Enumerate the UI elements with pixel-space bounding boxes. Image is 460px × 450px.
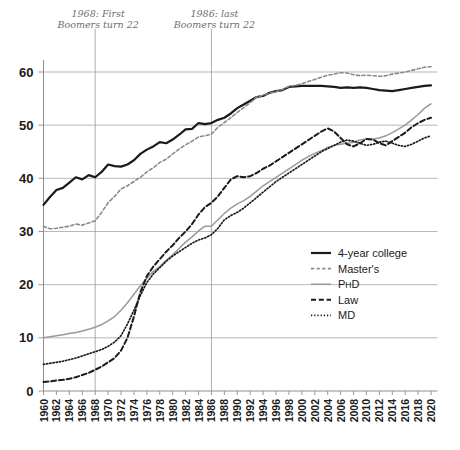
x-tick-label: 2020 (425, 399, 437, 423)
y-tick-label: 50 (19, 118, 33, 133)
x-tick-label: 1980 (167, 399, 179, 423)
grid-lines (44, 72, 438, 338)
x-tick-label: 1966 (76, 399, 88, 423)
x-tick-label: 2012 (373, 399, 385, 423)
x-tick-label: 1962 (50, 399, 62, 423)
x-tick-label: 1972 (115, 399, 127, 423)
series-line-4-year-college (44, 85, 432, 205)
x-tick-label: 1982 (180, 399, 192, 423)
x-tick-label: 1994 (257, 399, 269, 423)
x-tick-label: 1974 (128, 399, 140, 423)
annotation-text-line1: 1968: First (72, 8, 125, 19)
x-tick-label: 1964 (63, 399, 75, 423)
annotation-labels: 1968: FirstBoomers turn 221986: lastBoom… (57, 8, 255, 30)
x-tick-label: 1992 (244, 399, 256, 423)
x-tick-label: 2006 (335, 399, 347, 423)
annotation-text-line2: Boomers turn 22 (57, 19, 139, 30)
annotation-text-line1: 1986: last (191, 8, 239, 19)
x-tick-label: 2018 (412, 399, 424, 423)
x-tick-label: 1998 (283, 399, 295, 423)
x-tick-labels: 1960196219641966196819701972197419761978… (38, 399, 438, 423)
chart-container: 0102030405060 1968: FirstBoomers turn 22… (0, 0, 460, 450)
x-tick-label: 2014 (386, 399, 398, 423)
y-tick-label: 30 (19, 224, 33, 239)
x-tick-label: 2002 (309, 399, 321, 423)
x-tick-label: 1978 (154, 399, 166, 423)
legend-label-law[interactable]: Law (338, 294, 358, 306)
annotation-lines (95, 29, 211, 391)
x-axis (44, 391, 438, 395)
y-axis: 0102030405060 (19, 60, 43, 399)
x-tick-label: 1976 (141, 399, 153, 423)
y-tick-label: 0 (26, 384, 33, 399)
x-tick-label: 1984 (193, 399, 205, 423)
y-tick-label: 20 (19, 277, 33, 292)
x-tick-label: 1970 (102, 399, 114, 423)
data-series (44, 67, 432, 382)
x-tick-label: 2000 (296, 399, 308, 423)
x-tick-label: 1988 (218, 399, 230, 423)
y-tick-label: 40 (19, 171, 33, 186)
x-tick-label: 2008 (348, 399, 360, 423)
x-tick-label: 2004 (322, 399, 334, 423)
y-tick-label: 60 (19, 65, 33, 80)
x-tick-label: 2010 (360, 399, 372, 423)
chart-legend: 4-year collegeMaster'sPHDLawMD (311, 247, 407, 321)
line-chart: 0102030405060 1968: FirstBoomers turn 22… (0, 0, 460, 450)
x-tick-label: 1960 (38, 399, 50, 423)
annotation-text-line2: Boomers turn 22 (173, 19, 255, 30)
legend-label-master-s[interactable]: Master's (338, 263, 380, 275)
legend-label-4-year-college[interactable]: 4-year college (338, 247, 407, 259)
x-tick-label: 1968 (89, 399, 101, 423)
x-tick-label: 1990 (231, 399, 243, 423)
y-tick-label: 10 (19, 330, 33, 345)
x-tick-label: 2016 (399, 399, 411, 423)
series-line-phd (44, 104, 432, 338)
x-tick-label: 1986 (205, 399, 217, 423)
legend-label-phd[interactable]: PHD (338, 278, 359, 290)
x-tick-label: 1996 (270, 399, 282, 423)
legend-label-md[interactable]: MD (338, 309, 355, 321)
